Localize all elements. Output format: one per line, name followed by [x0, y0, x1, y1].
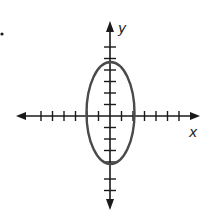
- x-axis-label: x: [188, 124, 198, 140]
- y-axis-up-arrow-icon: [106, 21, 114, 32]
- y-axis-down-arrow-icon: [106, 199, 114, 210]
- ellipse-diagram: y x: [0, 0, 220, 218]
- x-axis-right-arrow-icon: [190, 112, 200, 120]
- y-axis-label: y: [117, 20, 127, 36]
- item-marker-dot: [0, 32, 3, 35]
- x-axis-left-arrow-icon: [16, 112, 26, 120]
- x-axis: [16, 111, 200, 121]
